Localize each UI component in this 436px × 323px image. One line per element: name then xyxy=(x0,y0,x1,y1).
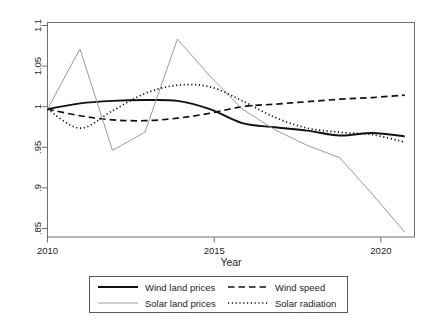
legend-label-wind-land-prices: Wind land prices xyxy=(145,282,215,293)
x-tick-label-2015: 2015 xyxy=(204,245,225,256)
legend-label-solar-radiation: Solar radiation xyxy=(275,298,336,309)
y-tick-label-1p05: 1.05 xyxy=(32,57,43,76)
legend-label-solar-land-prices: Solar land prices xyxy=(145,298,216,309)
y-tick-label-p85: .85 xyxy=(32,222,43,235)
x-tick-label-2020: 2020 xyxy=(370,245,391,256)
y-tick-label-p9: .9 xyxy=(32,184,43,192)
line-chart-figure: 1.1 1.05 1 .95 .9 .85 2010 2015 2020 Yea… xyxy=(0,0,436,323)
y-tick-label-1p1: 1.1 xyxy=(32,19,43,32)
x-axis-title: Year xyxy=(220,256,242,268)
y-tick-label-1: 1 xyxy=(32,104,43,109)
figure-background xyxy=(0,0,436,323)
chart-legend: Wind land prices Solar land prices Wind … xyxy=(90,277,348,313)
x-tick-label-2010: 2010 xyxy=(37,245,58,256)
legend-label-wind-speed: Wind speed xyxy=(275,282,325,293)
y-tick-label-p95: .95 xyxy=(32,141,43,154)
